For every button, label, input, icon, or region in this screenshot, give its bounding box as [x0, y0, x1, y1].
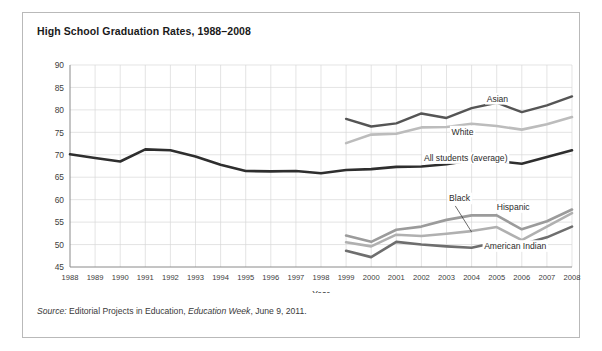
page-title: High School Graduation Rates, 1988–2008	[37, 25, 251, 37]
x-axis-tick-label: 1991	[137, 273, 154, 282]
figure-card: High School Graduation Rates, 1988–2008 …	[22, 12, 580, 338]
series-label-hispanic: Hispanic	[497, 202, 531, 212]
x-axis-tick-label: 1996	[262, 273, 279, 282]
x-axis-tick-label: 1989	[87, 273, 104, 282]
x-axis-tick-label: 2006	[513, 273, 530, 282]
x-axis-tick-label: 2000	[363, 273, 380, 282]
y-axis-tick-label: 90	[55, 60, 65, 70]
y-axis-tick-label: 60	[55, 195, 65, 205]
y-axis-tick-label: 75	[55, 128, 65, 138]
x-axis-tick-label: 1995	[237, 273, 254, 282]
x-axis-tick-label: 2002	[413, 273, 430, 282]
y-axis-tick-label: 80	[55, 105, 65, 115]
chart-plot-area: 4550556065707580859019881989199019911992…	[23, 43, 581, 293]
series-line-asian	[346, 96, 572, 126]
y-axis-tick-label: 65	[55, 172, 65, 182]
y-axis-tick-label: 50	[55, 240, 65, 250]
source-text-b: , June 9, 2011.	[250, 306, 306, 316]
x-axis-tick-label: 1988	[62, 273, 79, 282]
x-axis-tick-label: 1997	[287, 273, 304, 282]
y-axis-tick-label: 70	[55, 150, 65, 160]
series-label-black: Black	[449, 193, 471, 203]
x-axis-tick-label: 1994	[212, 273, 229, 282]
source-text-a: Editorial Projects in Education,	[67, 306, 188, 316]
x-axis-tick-label: 1993	[187, 273, 204, 282]
x-axis-tick-label: 2003	[438, 273, 455, 282]
x-axis-tick-label: 1990	[112, 273, 129, 282]
x-axis-tick-label: 1992	[162, 273, 179, 282]
x-axis-tick-label: 1998	[313, 273, 330, 282]
x-axis-tick-label: 2004	[463, 273, 480, 282]
x-axis-tick-label: 2008	[564, 273, 581, 282]
source-note: Source: Editorial Projects in Education,…	[37, 306, 307, 316]
x-axis-tick-label: 2005	[488, 273, 505, 282]
x-axis-tick-label: 2007	[538, 273, 555, 282]
x-axis-title: Year	[312, 289, 330, 293]
source-publication: Education Week	[188, 306, 250, 316]
y-axis-tick-label: 85	[55, 83, 65, 93]
series-label-american-indian: American Indian	[484, 241, 546, 251]
x-axis-tick-label: 2001	[388, 273, 405, 282]
y-axis-tick-label: 45	[55, 262, 65, 272]
series-line-hispanic	[346, 210, 572, 242]
x-axis-tick-label: 1999	[338, 273, 355, 282]
source-prefix: Source:	[37, 306, 67, 316]
series-label-all-students-average: All students (average)	[424, 153, 508, 163]
y-axis-tick-label: 55	[55, 217, 65, 227]
series-label-white: White	[452, 127, 474, 137]
series-label-asian: Asian	[487, 94, 509, 104]
line-chart: 4550556065707580859019881989199019911992…	[23, 43, 581, 293]
